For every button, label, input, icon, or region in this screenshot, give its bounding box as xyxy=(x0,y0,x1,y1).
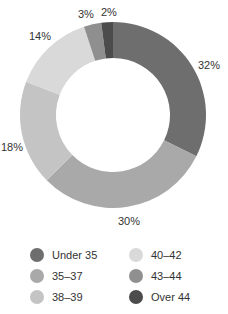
label-35-37: 30% xyxy=(118,215,140,227)
legend-item-40-42: 40–42 xyxy=(129,248,182,262)
donut-segment-under-35 xyxy=(113,22,206,156)
legend-label: 35–37 xyxy=(52,270,83,282)
legend-swatch-icon xyxy=(129,269,143,283)
legend-item-35-37: 35–37 xyxy=(30,269,83,283)
label-43-44: 3% xyxy=(78,8,94,20)
legend-label: Under 35 xyxy=(52,249,97,261)
legend-swatch-icon xyxy=(30,269,44,283)
legend-item-38-39: 38–39 xyxy=(30,290,83,304)
label-over-44: 2% xyxy=(101,6,117,18)
legend-item-over-44: Over 44 xyxy=(129,290,190,304)
legend-label: 38–39 xyxy=(52,291,83,303)
legend-label: Over 44 xyxy=(151,291,190,303)
legend-label: 40–42 xyxy=(151,249,182,261)
legend-swatch-icon xyxy=(30,290,44,304)
label-40-42: 14% xyxy=(29,30,51,42)
legend-swatch-icon xyxy=(129,290,143,304)
legend-item-under-35: Under 35 xyxy=(30,248,97,262)
donut-segment-35-37 xyxy=(47,140,197,208)
legend-swatch-icon xyxy=(129,248,143,262)
legend-swatch-icon xyxy=(30,248,44,262)
label-38-39: 18% xyxy=(1,141,23,153)
legend-item-43-44: 43–44 xyxy=(129,269,182,283)
legend-label: 43–44 xyxy=(151,270,182,282)
label-under-35: 32% xyxy=(198,59,220,71)
